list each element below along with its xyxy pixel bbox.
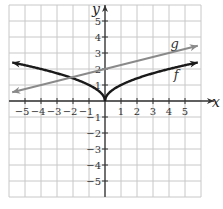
y-tick-label: 5 <box>95 16 101 27</box>
x-tick-label: 4 <box>166 106 172 117</box>
x-tick-label: −4 <box>31 106 46 117</box>
x-tick-label: −5 <box>15 106 30 117</box>
x-tick-label: 1 <box>118 106 124 117</box>
x-tick-label: 2 <box>134 106 140 117</box>
x-tick-label: 3 <box>150 106 156 117</box>
y-tick-label: −2 <box>86 128 101 139</box>
axes <box>9 5 214 197</box>
y-tick-label: 4 <box>95 32 101 43</box>
x-tick-label: −2 <box>63 106 78 117</box>
x-tick-label: −3 <box>47 106 62 117</box>
graph-plot: −5−4−3−2−11234554321−1−2−3−4−5 x y g f <box>0 0 223 209</box>
y-tick-label: −4 <box>86 160 101 171</box>
y-tick-label: −3 <box>86 144 101 155</box>
y-tick-label: 2 <box>95 64 101 75</box>
y-tick-label: −5 <box>86 176 101 187</box>
y-tick-label: −1 <box>86 112 101 123</box>
x-axis-label: x <box>212 94 220 110</box>
y-tick-label: 3 <box>95 48 101 59</box>
y-axis-label: y <box>91 1 101 17</box>
g-label: g <box>171 36 179 51</box>
x-tick-label: 5 <box>182 106 188 117</box>
